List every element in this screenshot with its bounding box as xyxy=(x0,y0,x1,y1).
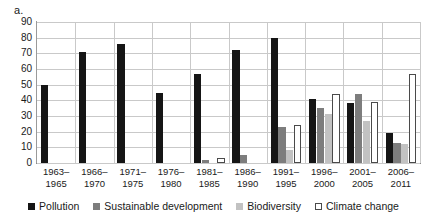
gridline xyxy=(37,163,420,164)
y-tick-label: 80 xyxy=(2,33,32,43)
x-tick-label: 1996–2000 xyxy=(305,166,343,189)
bar xyxy=(393,143,400,163)
bar-group xyxy=(267,22,305,163)
bar xyxy=(232,50,239,163)
legend-label: Climate change xyxy=(326,200,399,212)
bar xyxy=(278,127,285,163)
x-tick-label: 1976–1980 xyxy=(152,166,190,189)
y-tick-label: 60 xyxy=(2,64,32,74)
bar-group xyxy=(229,22,267,163)
y-tick-label: 90 xyxy=(2,17,32,27)
chart-figure: a. 9080706050403020100 1963–19651966–197… xyxy=(0,0,427,220)
x-tick-label: 1966–1970 xyxy=(75,166,113,189)
bar xyxy=(355,94,362,163)
bar xyxy=(194,74,201,163)
panel-label: a. xyxy=(14,4,24,16)
x-tick-label: 2001–2005 xyxy=(343,166,381,189)
legend-swatch-icon xyxy=(93,203,100,210)
y-tick-label: 30 xyxy=(2,111,32,121)
plot-area xyxy=(37,22,420,163)
bar-group xyxy=(37,22,75,163)
bar xyxy=(347,103,354,163)
bar-group xyxy=(343,22,381,163)
bar-group xyxy=(75,22,113,163)
legend-swatch-icon xyxy=(28,203,35,210)
x-tick-label: 1991–1995 xyxy=(267,166,305,189)
bar xyxy=(240,155,247,163)
legend-item-biodiversity[interactable]: Biodiversity xyxy=(236,200,301,212)
x-tick-label: 2006–2011 xyxy=(382,166,420,189)
x-tick-label: 1981–1985 xyxy=(190,166,228,189)
bar xyxy=(117,44,124,163)
bar-group xyxy=(305,22,343,163)
legend-item-sustainable[interactable]: Sustainable development xyxy=(93,200,222,212)
legend-swatch-icon xyxy=(236,203,243,210)
legend-item-pollution[interactable]: Pollution xyxy=(28,200,79,212)
bar xyxy=(317,108,324,163)
x-tick-label: 1971–1975 xyxy=(114,166,152,189)
bar xyxy=(409,74,416,163)
legend-label: Sustainable development xyxy=(104,200,222,212)
category-separator xyxy=(420,22,421,163)
bar xyxy=(271,38,278,163)
bar-group xyxy=(114,22,152,163)
legend-item-climate[interactable]: Climate change xyxy=(315,200,399,212)
bar xyxy=(309,99,316,163)
y-tick-label: 20 xyxy=(2,127,32,137)
bar xyxy=(156,93,163,164)
chart-legend: PollutionSustainable developmentBiodiver… xyxy=(0,198,427,214)
y-tick-label: 70 xyxy=(2,48,32,58)
bar xyxy=(363,121,370,163)
bar-group xyxy=(152,22,190,163)
bar xyxy=(202,160,209,163)
x-tick-label: 1963–1965 xyxy=(37,166,75,189)
bar xyxy=(79,52,86,163)
y-tick-label: 40 xyxy=(2,95,32,105)
legend-swatch-icon xyxy=(315,203,322,210)
bar xyxy=(386,133,393,163)
bar-group xyxy=(190,22,228,163)
x-tick-label: 1986–1990 xyxy=(229,166,267,189)
bar xyxy=(41,85,48,163)
bar xyxy=(217,158,224,163)
bar-group xyxy=(382,22,420,163)
bar xyxy=(325,114,332,163)
y-tick-label: 50 xyxy=(2,80,32,90)
bar xyxy=(401,144,408,163)
y-tick-label: 0 xyxy=(2,158,32,168)
legend-label: Biodiversity xyxy=(247,200,301,212)
bar xyxy=(286,150,293,163)
legend-label: Pollution xyxy=(39,200,79,212)
y-tick-label: 10 xyxy=(2,142,32,152)
bar xyxy=(294,125,301,163)
bar xyxy=(371,102,378,163)
bar xyxy=(332,94,339,163)
